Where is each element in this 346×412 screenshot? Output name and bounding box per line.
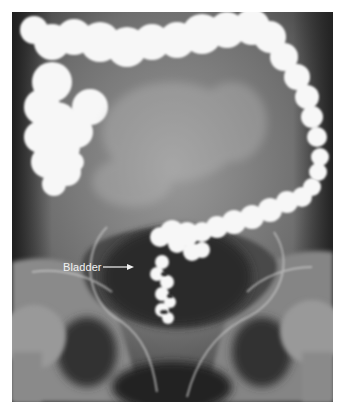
radiograph-image: [12, 12, 333, 402]
bladder-label: Bladder: [63, 261, 102, 273]
